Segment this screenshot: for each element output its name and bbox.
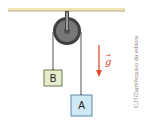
- block-a: A: [71, 95, 92, 116]
- block-b: B: [44, 70, 62, 86]
- block-b-label: B: [50, 73, 57, 84]
- block-a-label: A: [78, 100, 85, 111]
- ceiling: [8, 8, 125, 11]
- gravity-arrow-icon: [96, 45, 102, 77]
- pulley: [53, 11, 81, 45]
- image-credit: CJT/Zapt/Arquivo da editora: [133, 36, 139, 108]
- vector-arrow-icon: →: [106, 51, 111, 58]
- atwood-machine-diagram: B A g →: [0, 0, 152, 123]
